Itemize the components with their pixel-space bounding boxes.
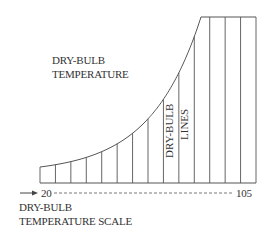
scale-start-value: 20: [41, 186, 52, 200]
dry-bulb-temperature-label: DRY-BULB TEMPERATURE: [52, 53, 129, 81]
title-line1: DRY-BULB: [52, 53, 129, 67]
dry-bulb-lines-label-2: LINES: [178, 109, 190, 140]
right-arrow-icon: [20, 191, 38, 196]
title-line2: TEMPERATURE: [52, 67, 129, 81]
dry-bulb-lines-label-1: DRY-BULB: [163, 104, 175, 158]
saturation-curve: [40, 17, 201, 167]
dry-bulb-temperature-scale-label: DRY-BULB TEMPERATURE SCALE: [19, 200, 132, 228]
scale-end-value: 105: [236, 186, 252, 200]
scale-line2: TEMPERATURE SCALE: [19, 214, 132, 228]
dry-bulb-lines-group: [40, 17, 256, 183]
scale-line1: DRY-BULB: [19, 200, 132, 214]
